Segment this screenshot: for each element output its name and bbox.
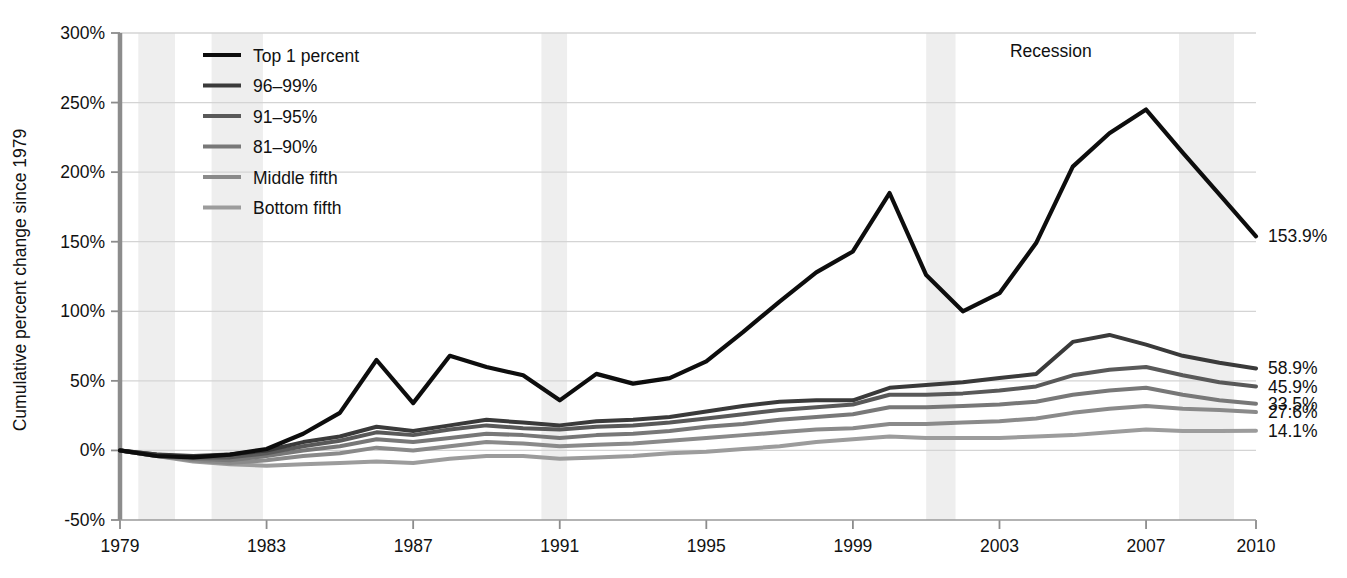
y-tick-label: 100% xyxy=(60,301,105,321)
recession-annotation-label: Recession xyxy=(1010,41,1092,61)
line-chart: 300%250%200%150%100%50%0%-50% 1979198319… xyxy=(0,0,1347,578)
legend-label-5: Middle fifth xyxy=(253,168,338,188)
legend-label-4: 81–90% xyxy=(253,137,317,157)
recession-band xyxy=(1179,33,1234,520)
y-tick-label: 0% xyxy=(80,440,105,460)
y-tick-label: 200% xyxy=(60,162,105,182)
legend-label-6: Bottom fifth xyxy=(253,198,342,218)
series-end-label: 58.9% xyxy=(1268,358,1318,378)
x-tick-label: 1999 xyxy=(833,536,872,556)
legend-label-2: 96–99% xyxy=(253,76,317,96)
x-tick-label: 1979 xyxy=(101,536,140,556)
y-axis-title: Cumulative percent change since 1979 xyxy=(10,129,30,432)
series-end-label: 14.1% xyxy=(1268,421,1318,441)
chart-background xyxy=(0,0,1347,578)
x-tick-label: 1995 xyxy=(687,536,726,556)
x-tick-label: 2007 xyxy=(1127,536,1166,556)
chart-container: 300%250%200%150%100%50%0%-50% 1979198319… xyxy=(0,0,1347,578)
y-tick-label: 150% xyxy=(60,232,105,252)
x-tick-label: 1991 xyxy=(540,536,579,556)
y-tick-label: 50% xyxy=(70,371,105,391)
x-tick-label: 1987 xyxy=(394,536,433,556)
annotations-group: Recession xyxy=(1010,41,1092,61)
x-tick-label: 2003 xyxy=(980,536,1019,556)
series-end-label: 27.6% xyxy=(1268,402,1318,422)
y-tick-label: 250% xyxy=(60,93,105,113)
y-tick-label: 300% xyxy=(60,23,105,43)
y-tick-label: -50% xyxy=(64,510,105,530)
x-tick-label: 2010 xyxy=(1237,536,1276,556)
recession-band xyxy=(138,33,175,520)
legend-label-1: Top 1 percent xyxy=(253,46,359,66)
legend-label-3: 91–95% xyxy=(253,107,317,127)
x-tick-label: 1983 xyxy=(247,536,286,556)
series-end-label: 153.9% xyxy=(1268,226,1327,246)
